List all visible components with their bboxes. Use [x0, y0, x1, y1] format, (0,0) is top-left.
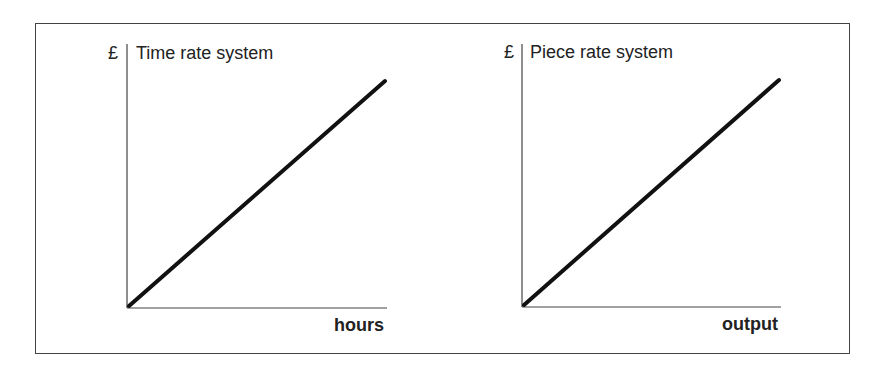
piece-rate-line: [524, 80, 779, 305]
time-rate-y-label: £: [108, 43, 118, 64]
time-rate-x-label: hours: [334, 315, 384, 336]
piece-rate-x-label: output: [722, 314, 778, 335]
time-rate-line: [129, 81, 385, 306]
piece-rate-title: Piece rate system: [530, 42, 673, 63]
piece-rate-y-label: £: [504, 42, 514, 63]
time-rate-title: Time rate system: [136, 43, 273, 64]
